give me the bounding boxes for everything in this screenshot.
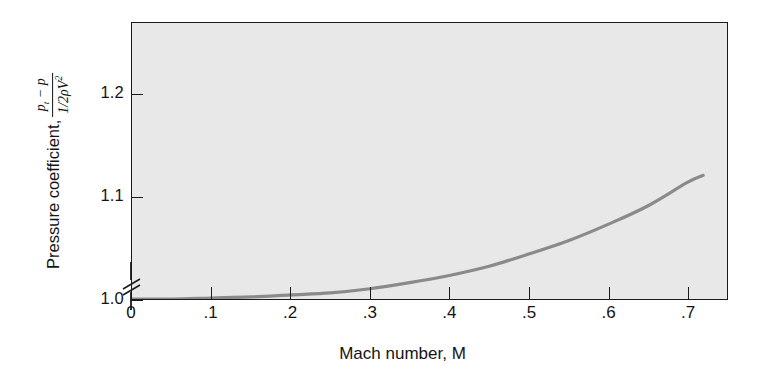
plot-area (131, 22, 728, 300)
x-tick-.6 (609, 287, 610, 300)
curve-layer (132, 23, 727, 299)
y-tick-1.2 (131, 94, 143, 95)
x-tick-label-.1: .1 (191, 303, 231, 323)
x-tick-.4 (449, 287, 450, 300)
y-tick-1.1 (131, 197, 143, 198)
x-tick-.7 (688, 287, 689, 300)
x-tick-.3 (370, 287, 371, 300)
x-tick-label-.6: .6 (589, 303, 629, 323)
x-axis-title: Mach number, M (0, 344, 759, 364)
x-tick-label-.3: .3 (350, 303, 390, 323)
x-tick-.1 (211, 287, 212, 300)
pressure-coefficient-chart: 1.01.11.2 0.1.2.3.4.5.6.7 Pressure coeff… (0, 0, 759, 375)
x-tick-label-.4: .4 (429, 303, 469, 323)
y-axis-title-text: Pressure coefficient, (45, 120, 64, 269)
data-curve-path (132, 175, 703, 299)
x-tick-label-.5: .5 (509, 303, 549, 323)
pressure-coefficient-formula: pt − p 1/2ρV2 (34, 73, 72, 117)
x-tick-label-.7: .7 (668, 303, 708, 323)
x-tick-.2 (290, 287, 291, 300)
x-axis-title-text: Mach number, M (339, 344, 466, 364)
formula-numerator: pt − p (34, 75, 52, 114)
x-tick-label-.2: .2 (270, 303, 310, 323)
x-tick-label-0: 0 (111, 303, 151, 323)
y-tick-1.0 (131, 300, 143, 301)
y-axis-title: Pressure coefficient, pt − p 1/2ρV2 (35, 21, 73, 321)
formula-denominator: 1/2ρV2 (52, 73, 71, 117)
x-tick-.5 (529, 287, 530, 300)
